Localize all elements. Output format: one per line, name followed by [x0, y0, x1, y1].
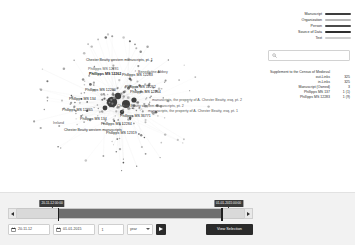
network-graph-canvas[interactable]: Chester Beatty western manuscripts, pt. …	[0, 0, 262, 192]
graph-node[interactable]	[115, 110, 117, 112]
graph-node-label[interactable]: Phillipps MS 12283	[122, 73, 153, 77]
graph-node[interactable]	[90, 45, 92, 47]
graph-node[interactable]	[136, 110, 138, 112]
graph-node[interactable]	[178, 79, 180, 81]
graph-node[interactable]	[137, 65, 139, 67]
graph-node[interactable]	[74, 102, 75, 103]
graph-node[interactable]	[161, 88, 163, 90]
graph-node[interactable]	[157, 115, 158, 116]
graph-node[interactable]	[130, 119, 132, 121]
graph-node[interactable]	[119, 148, 121, 150]
graph-node[interactable]	[103, 98, 105, 100]
graph-node[interactable]	[136, 166, 137, 167]
graph-node-label[interactable]: Phillipps MS 12260	[85, 88, 116, 92]
graph-node[interactable]	[102, 155, 104, 157]
timeline-selected-range[interactable]	[58, 209, 221, 218]
graph-node[interactable]	[149, 97, 151, 99]
graph-node-label[interactable]: Phillipps MS 36771	[120, 114, 151, 118]
graph-node[interactable]	[46, 80, 48, 82]
graph-node[interactable]	[93, 82, 95, 84]
graph-node[interactable]	[115, 151, 117, 153]
graph-node[interactable]	[135, 70, 136, 71]
graph-node[interactable]	[134, 44, 136, 46]
graph-node[interactable]	[83, 121, 85, 123]
graph-node[interactable]	[80, 92, 82, 94]
graph-node[interactable]	[76, 124, 77, 125]
graph-node[interactable]	[47, 97, 49, 99]
graph-node[interactable]	[83, 52, 86, 55]
graph-node[interactable]	[107, 33, 109, 35]
graph-node[interactable]	[122, 95, 125, 98]
graph-node[interactable]	[129, 78, 132, 81]
graph-node[interactable]	[184, 65, 185, 66]
graph-node[interactable]	[113, 106, 115, 108]
graph-node[interactable]	[86, 101, 88, 103]
graph-node[interactable]	[139, 50, 142, 53]
graph-node[interactable]	[160, 157, 161, 158]
graph-node[interactable]	[106, 100, 108, 102]
graph-node[interactable]	[141, 146, 143, 148]
graph-node[interactable]	[60, 147, 61, 148]
graph-node[interactable]	[194, 76, 196, 78]
graph-node[interactable]	[111, 141, 112, 142]
graph-node[interactable]	[84, 92, 86, 94]
graph-node[interactable]	[122, 98, 124, 100]
graph-node[interactable]	[121, 170, 122, 171]
graph-node[interactable]	[135, 47, 137, 49]
graph-node[interactable]	[145, 98, 147, 100]
graph-node[interactable]	[116, 138, 118, 140]
timeline-handle-end[interactable]	[221, 208, 223, 221]
play-button[interactable]	[156, 224, 166, 235]
graph-node[interactable]	[103, 106, 108, 111]
graph-node[interactable]	[87, 43, 89, 45]
graph-node[interactable]	[100, 93, 103, 96]
graph-node[interactable]	[58, 125, 60, 127]
graph-node[interactable]	[207, 105, 209, 107]
graph-node[interactable]	[113, 119, 115, 121]
timeline-step-back-button[interactable]	[8, 208, 17, 219]
graph-node[interactable]	[123, 91, 125, 93]
graph-node[interactable]	[183, 138, 185, 140]
graph-node[interactable]	[123, 162, 125, 164]
graph-node[interactable]	[117, 96, 118, 97]
graph-node[interactable]	[144, 137, 146, 139]
graph-node-label[interactable]: Chester Beatty western manuscripts, pt. …	[117, 104, 184, 108]
graph-node[interactable]	[119, 138, 121, 140]
search-input[interactable]	[279, 54, 349, 58]
graph-node[interactable]	[98, 108, 100, 110]
graph-node[interactable]	[79, 102, 81, 104]
graph-node[interactable]	[138, 133, 140, 135]
graph-node[interactable]	[122, 109, 124, 111]
graph-node[interactable]	[93, 107, 94, 108]
timeline-track[interactable]	[17, 208, 244, 219]
search-box[interactable]	[268, 50, 350, 61]
graph-node[interactable]	[70, 103, 72, 105]
graph-node[interactable]	[164, 133, 166, 135]
graph-node[interactable]	[160, 142, 162, 144]
graph-node[interactable]	[75, 113, 76, 114]
graph-node-label[interactable]: Phillipps MS 12265	[62, 108, 93, 112]
graph-node[interactable]	[106, 102, 108, 104]
graph-node[interactable]	[141, 108, 142, 109]
graph-node[interactable]	[145, 153, 147, 155]
graph-node-label[interactable]: Phillipps MS 12281	[88, 67, 119, 71]
graph-node-label[interactable]: manuscripts, the property of A. Chester …	[148, 109, 238, 113]
date-from-field[interactable]: 20-11-12	[8, 224, 50, 235]
graph-node[interactable]	[107, 94, 109, 96]
graph-node[interactable]	[189, 90, 190, 91]
legend-row[interactable]: Text	[265, 35, 351, 41]
graph-node[interactable]	[111, 35, 113, 37]
graph-node[interactable]	[118, 79, 120, 81]
graph-node[interactable]	[145, 119, 147, 121]
graph-node[interactable]	[145, 121, 147, 123]
graph-node[interactable]	[182, 142, 183, 143]
graph-node-label[interactable]: Phillipps MS 12264	[130, 90, 161, 94]
timeline-step-forward-button[interactable]	[244, 208, 253, 219]
graph-node[interactable]	[99, 111, 101, 113]
graph-node[interactable]	[133, 123, 135, 125]
graph-node[interactable]	[97, 39, 99, 41]
graph-node[interactable]	[127, 96, 130, 99]
graph-node[interactable]	[61, 100, 63, 102]
step-value-input[interactable]: 1	[98, 224, 124, 235]
graph-node[interactable]	[164, 117, 165, 118]
